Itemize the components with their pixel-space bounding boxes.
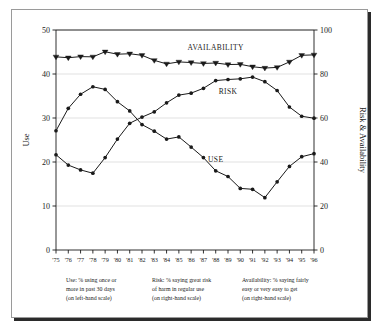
data-point-use [91,85,95,89]
availability-note-line: easy or very easy to get [242,286,298,292]
series-label-availability: AVAILABILITY [188,43,244,52]
data-point-risk [165,101,169,105]
series-label-risk: RISK [219,87,238,96]
data-point-use [177,135,181,139]
data-point-use [140,123,144,127]
data-point-risk [214,79,218,83]
data-point-availability [262,66,268,71]
xtick-label: '86 [187,256,194,263]
data-point-use [312,152,316,156]
data-point-use [300,155,304,159]
xtick-label: '78 [89,256,96,263]
ytick-label-right: 40 [320,158,328,167]
xtick-label: '82 [138,256,145,263]
data-point-use [79,92,83,96]
xtick-label: '89 [224,256,231,263]
data-point-use [103,88,107,92]
data-point-risk [202,86,206,90]
data-point-risk [288,105,292,109]
data-point-risk [103,156,107,160]
ytick-label-left: 20 [42,158,50,167]
xtick-label: '79 [101,256,108,263]
data-point-use [66,106,70,110]
series-line-use [56,87,314,198]
xtick-label: '81 [126,256,133,263]
data-point-risk [275,89,279,93]
data-point-risk [128,121,132,125]
data-point-availability [201,62,207,67]
xtick-label: '90 [237,256,244,263]
data-point-risk [140,115,144,119]
xtick-label: '80 [114,256,121,263]
ytick-label-left: 30 [42,114,50,123]
xtick-label: '92 [261,256,268,263]
data-point-use [165,137,169,141]
data-point-risk [54,153,58,157]
data-point-availability [90,55,96,60]
data-point-use [202,156,206,160]
axis-title-left: Use [21,133,31,146]
risk-note-line: (on right-hand scale) [152,295,201,302]
xtick-label: '88 [212,256,219,263]
data-point-risk [66,163,70,167]
data-point-use [263,196,267,200]
data-point-availability [115,52,121,57]
data-point-availability [164,62,170,67]
data-point-use [275,180,279,184]
data-point-use [128,109,132,113]
risk-note-line: of harm in regular use [152,286,204,292]
xtick-label: '95 [298,256,305,263]
ytick-label-left: 40 [42,70,50,79]
data-point-risk [312,116,316,120]
use-note-line: more in past 30 days [66,286,115,292]
data-point-risk [226,78,230,82]
ytick-label-left: 10 [42,202,50,211]
figure-container: 01020304050020406080100'75'76'77'78'79'8… [0,0,385,336]
ytick-label-right: 0 [320,246,324,255]
axis-title-right: Risk & Availability [358,107,368,174]
data-point-availability [311,53,317,58]
line-chart: 01020304050020406080100'75'76'77'78'79'8… [0,0,385,336]
data-point-risk [79,168,83,172]
xtick-label: '91 [249,256,256,263]
use-note-line: (on left-hand scale) [66,295,112,302]
availability-note-line: (on right-hand scale) [242,295,291,302]
data-point-use [54,129,58,133]
data-point-use [288,165,292,169]
data-point-risk [251,75,255,79]
xtick-label: '87 [200,256,207,263]
data-point-use [226,175,230,179]
data-point-risk [152,110,156,114]
data-point-risk [263,80,267,84]
xtick-label: '94 [286,256,293,263]
ytick-label-right: 100 [320,26,332,35]
ytick-label-left: 50 [42,26,50,35]
xtick-label: '93 [273,256,280,263]
data-point-use [189,145,193,149]
data-point-use [214,169,218,173]
xtick-label: '83 [151,256,158,263]
xtick-label: '85 [175,256,182,263]
data-point-risk [238,77,242,81]
data-point-use [116,100,120,104]
data-point-risk [91,171,95,175]
xtick-label: '75 [52,256,59,263]
data-point-risk [177,93,181,97]
data-point-risk [300,114,304,118]
availability-note-line: Availability: % saying fairly [242,277,309,283]
data-point-use [238,187,242,191]
ytick-label-left: 0 [46,246,50,255]
plot-area: 01020304050020406080100'75'76'77'78'79'8… [0,0,385,336]
use-note-line: Use: % using once or [66,277,116,283]
ytick-label-right: 20 [320,202,328,211]
xtick-label: '76 [65,256,72,263]
xtick-label: '77 [77,256,84,263]
xtick-label: '84 [163,256,170,263]
data-point-availability [225,63,231,68]
series-line-risk [56,77,314,173]
data-point-risk [116,137,120,141]
data-point-use [152,129,156,133]
series-label-use: USE [208,155,223,164]
ytick-label-right: 60 [320,114,328,123]
data-point-availability [65,56,71,61]
